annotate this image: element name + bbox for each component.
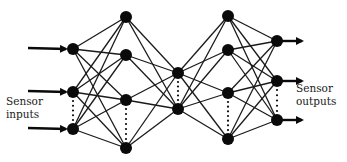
ellipsis-dot bbox=[177, 99, 179, 101]
ellipsis-dot bbox=[72, 119, 74, 121]
sensor-inputs-label-line1: Sensor bbox=[6, 95, 43, 108]
output-node bbox=[271, 75, 283, 87]
ellipsis-dot bbox=[227, 115, 229, 117]
hidden-2-node bbox=[222, 133, 234, 145]
connection-edge bbox=[178, 16, 228, 73]
ellipsis-dot bbox=[227, 101, 229, 103]
ellipsis-dot bbox=[72, 105, 74, 107]
connection-edge bbox=[228, 93, 277, 120]
connections bbox=[73, 16, 277, 148]
connection-edge bbox=[178, 50, 228, 109]
ellipsis-dot bbox=[125, 123, 127, 125]
input-node bbox=[67, 43, 79, 55]
sensor-outputs-label-line1: Sensor bbox=[296, 82, 336, 95]
hidden-2-node bbox=[222, 10, 234, 22]
ellipsis-dot bbox=[227, 120, 229, 122]
ellipsis-dot bbox=[276, 94, 278, 96]
ellipsis-dot bbox=[177, 94, 179, 96]
ellipsis-dot bbox=[125, 138, 127, 140]
hidden-1-node bbox=[120, 11, 132, 23]
ellipsis-dot bbox=[72, 114, 74, 116]
hidden-1-node bbox=[120, 49, 132, 61]
connection-edge bbox=[178, 109, 228, 139]
ellipsis-dot bbox=[177, 90, 179, 92]
input-arrow bbox=[28, 91, 66, 92]
ellipsis-dot bbox=[125, 133, 127, 135]
neural-network-diagram bbox=[0, 0, 347, 162]
ellipsis-dot bbox=[72, 100, 74, 102]
output-node bbox=[271, 114, 283, 126]
ellipsis-dot bbox=[227, 106, 229, 108]
ellipsis-dot bbox=[125, 108, 127, 110]
ellipsis-dot bbox=[177, 85, 179, 87]
connection-edge bbox=[228, 16, 277, 120]
sensor-inputs-label: Sensor inputs bbox=[6, 95, 43, 121]
ellipsis-dot bbox=[72, 109, 74, 111]
ellipsis-dot bbox=[227, 110, 229, 112]
bottleneck-node bbox=[172, 67, 184, 79]
hidden-1-node bbox=[120, 142, 132, 154]
ellipsis-dot bbox=[125, 113, 127, 115]
connection-edge bbox=[228, 16, 277, 41]
ellipsis-dot bbox=[125, 118, 127, 120]
input-node bbox=[67, 86, 79, 98]
connection-edge bbox=[126, 73, 178, 148]
ellipsis-dot bbox=[177, 81, 179, 83]
bottleneck-node bbox=[172, 103, 184, 115]
ellipsis-dot bbox=[227, 129, 229, 131]
connection-edge bbox=[126, 109, 178, 148]
ellipsis-dot bbox=[276, 105, 278, 107]
ellipsis-dot bbox=[227, 124, 229, 126]
ellipsis-dot bbox=[276, 99, 278, 101]
input-node bbox=[67, 123, 79, 135]
connection-edge bbox=[73, 17, 126, 129]
hidden-2-node bbox=[222, 44, 234, 56]
ellipsis-dot bbox=[276, 89, 278, 91]
sensor-outputs-label-line2: outputs bbox=[296, 95, 336, 108]
sensor-inputs-label-line2: inputs bbox=[6, 108, 43, 121]
input-arrow bbox=[28, 128, 66, 129]
input-arrow bbox=[28, 48, 66, 49]
hidden-1-node bbox=[120, 94, 132, 106]
ellipsis-dot bbox=[125, 128, 127, 130]
sensor-outputs-label: Sensor outputs bbox=[296, 82, 336, 108]
connection-edge bbox=[73, 100, 126, 129]
ellipsis-dot bbox=[276, 110, 278, 112]
hidden-2-node bbox=[222, 87, 234, 99]
connection-edge bbox=[73, 92, 126, 148]
output-node bbox=[271, 35, 283, 47]
